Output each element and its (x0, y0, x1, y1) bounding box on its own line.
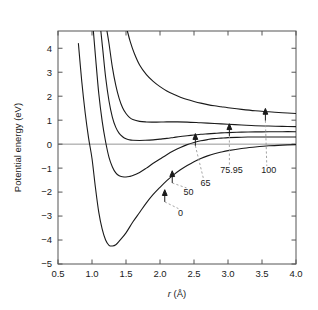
y-tick-label: 4 (47, 43, 52, 54)
y-tick-label: −3 (41, 210, 52, 221)
x-axis-title-unit: (Å) (171, 288, 186, 299)
x-tick-label: 2.0 (153, 268, 166, 279)
x-tick-label: 0.5 (51, 268, 64, 279)
annotation-leader-line (265, 121, 266, 166)
curve-label-65: 65 (201, 178, 211, 188)
y-tick-label: −5 (41, 258, 52, 269)
y-axis-title: Potential energy (eV) (12, 103, 23, 192)
y-tick-label: −4 (41, 234, 52, 245)
potential-curve-75-95 (107, 31, 296, 127)
x-tick-label: 1.0 (85, 268, 98, 279)
x-tick-label: 1.5 (119, 268, 132, 279)
y-tick-label: 2 (47, 91, 52, 102)
curve-label-100: 100 (261, 165, 276, 175)
x-axis-title: r (Å) (168, 288, 186, 299)
annotation-leader-line (165, 202, 179, 209)
y-axis-ticks (58, 48, 296, 264)
y-tick-label: 0 (47, 139, 52, 150)
potential-energy-figure: 0506575.95100 0.51.01.52.02.53.03.54.0 −… (0, 0, 318, 310)
y-tick-label: −1 (41, 163, 52, 174)
axes-frame (58, 31, 296, 264)
y-tick-label: −2 (41, 186, 52, 197)
potential-curve-65 (101, 31, 296, 140)
annotation-arrow-head (263, 108, 268, 114)
x-axis-tick-labels: 0.51.01.52.02.53.03.54.0 (51, 268, 302, 279)
potential-curve-100 (127, 31, 296, 113)
annotation-leader-line (195, 146, 203, 179)
curve-label-50: 50 (184, 187, 194, 197)
x-tick-label: 4.0 (289, 268, 302, 279)
potential-curve-50 (93, 31, 296, 177)
y-tick-label: 3 (47, 67, 52, 78)
y-tick-label: 1 (47, 115, 52, 126)
x-tick-label: 3.5 (255, 268, 268, 279)
annotation-arrow-head (162, 190, 167, 196)
plot-frame (58, 31, 296, 264)
curve-label-75-95: 75.95 (220, 165, 243, 175)
y-axis-tick-labels: −5−4−3−2−101234 (41, 43, 52, 270)
curve-label-0: 0 (178, 208, 183, 218)
chart-canvas: 0506575.95100 0.51.01.52.02.53.03.54.0 −… (0, 0, 318, 310)
x-axis-ticks (58, 31, 296, 264)
curve-annotations: 0506575.95100 (162, 108, 276, 217)
x-tick-label: 2.5 (187, 268, 200, 279)
potential-curves (78, 31, 296, 246)
annotation-arrow-head (170, 171, 175, 177)
x-tick-label: 3.0 (221, 268, 234, 279)
